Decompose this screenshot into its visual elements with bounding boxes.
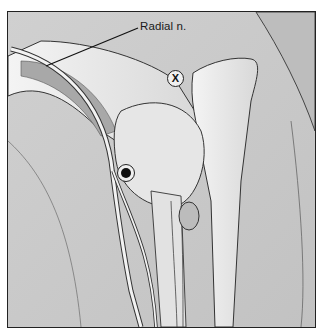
radial-nerve-label: Radial n.: [140, 20, 186, 32]
elbow-anatomy-illustration: [8, 12, 315, 327]
x-marker-icon: X: [167, 70, 184, 87]
target-dot-icon: [117, 164, 135, 182]
illustration-frame: [7, 11, 316, 328]
